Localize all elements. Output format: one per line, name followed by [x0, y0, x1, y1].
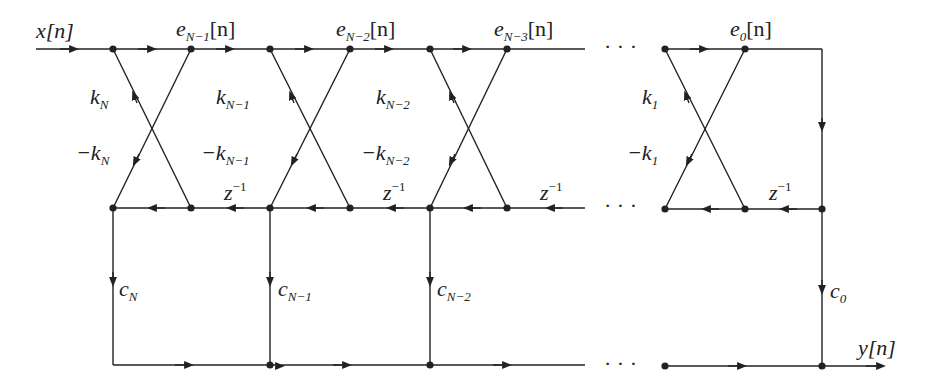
delay-2: z−1: [382, 179, 405, 205]
ellipsis-bottom: · · ·: [604, 351, 637, 376]
node: [109, 45, 116, 52]
node: [503, 204, 510, 211]
lattice-ladder-diagram: · · · · · · · · · x[n] y[n] eN−1[n] eN−2…: [0, 0, 937, 390]
node: [818, 205, 825, 212]
node: [426, 361, 433, 368]
delay-1: z−1: [223, 179, 246, 205]
node: [426, 204, 433, 211]
coef-kN1: kN−1: [216, 84, 250, 112]
label-e-N-1: eN−1[n]: [176, 16, 235, 44]
coef-neg-kN2: −kN−2: [361, 140, 410, 168]
ellipsis-middle: · · ·: [604, 193, 637, 218]
coef-neg-kN1: −kN−1: [201, 140, 250, 168]
node: [346, 45, 353, 52]
input-label: x[n]: [35, 18, 74, 43]
coef-cN2: cN−2: [437, 276, 471, 304]
node: [187, 45, 194, 52]
output-label: y[n]: [856, 335, 896, 360]
label-e-0: e0[n]: [730, 16, 772, 44]
coef-kN2: kN−2: [376, 84, 410, 112]
node: [661, 362, 668, 369]
node: [266, 361, 273, 368]
node: [346, 204, 353, 211]
delay-4: z−1: [768, 179, 791, 205]
coef-neg-k1: −k1: [627, 140, 658, 168]
coef-neg-kN: −kN: [76, 140, 111, 168]
delay-3: z−1: [539, 179, 562, 205]
node: [109, 204, 116, 211]
node: [661, 205, 668, 212]
ellipsis-top: · · ·: [604, 34, 637, 59]
coef-cN: cN: [119, 276, 139, 304]
node: [741, 205, 748, 212]
coef-c0: c0: [830, 278, 847, 306]
node: [741, 45, 748, 52]
coef-k1: k1: [642, 84, 658, 112]
node: [266, 45, 273, 52]
node: [426, 45, 433, 52]
node: [661, 45, 668, 52]
coef-cN1: cN−1: [278, 276, 312, 304]
node: [818, 362, 825, 369]
node: [266, 204, 273, 211]
node: [503, 45, 510, 52]
node: [187, 204, 194, 211]
label-e-N-3: eN−3[n]: [494, 16, 553, 44]
coef-kN: kN: [90, 84, 110, 112]
label-e-N-2: eN−2[n]: [336, 16, 395, 44]
